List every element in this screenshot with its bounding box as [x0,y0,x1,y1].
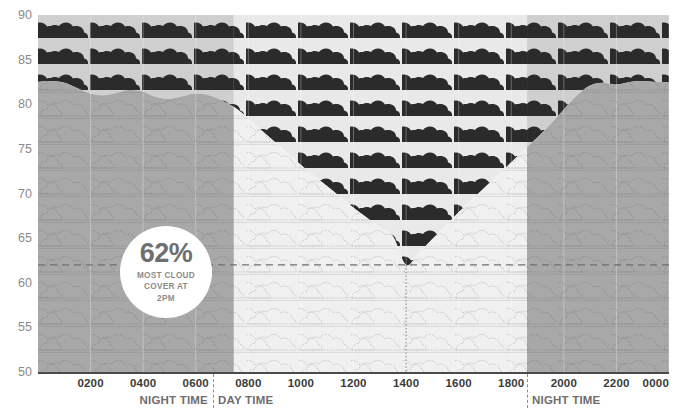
callout-line-1: MOST CLOUD [137,270,195,281]
callout-percent: 62% [140,240,193,267]
y-tick-label: 55 [2,321,32,334]
y-axis: 90 85 80 75 70 65 60 55 50 [0,0,38,419]
y-tick-label: 85 [2,53,32,66]
callout-description: MOST CLOUD COVER AT 2PM [137,270,195,303]
x-tick-label: 0200 [77,377,103,389]
period-label-night-late: NIGHT TIME [532,394,600,406]
period-label-day: DAY TIME [218,394,273,406]
x-tick-label: 0400 [130,377,156,389]
x-tick-label: 0800 [235,377,261,389]
y-tick-label: 50 [2,366,32,379]
x-tick-label: 1200 [340,377,366,389]
y-tick-label: 90 [2,9,32,22]
callout-line-3: 2PM [137,293,195,304]
x-tick-label: 0000 [643,377,669,389]
cloud-cover-area-svg [38,15,669,372]
y-tick-label: 60 [2,277,32,290]
cloud-cover-chart: 90 85 80 75 70 65 60 55 50 [0,0,682,419]
y-tick-label: 75 [2,143,32,156]
x-tick-label: 0600 [183,377,209,389]
callout-line-2: COVER AT [137,281,195,292]
most-cloud-cover-callout: 62% MOST CLOUD COVER AT 2PM [120,226,212,318]
y-tick-label: 65 [2,232,32,245]
x-tick-label: 1000 [288,377,314,389]
x-tick-label: 2000 [551,377,577,389]
x-tick-label: 2200 [603,377,629,389]
y-tick-label: 70 [2,187,32,200]
day-night-separator-morning [213,374,214,408]
plot-area [38,15,669,372]
x-tick-label: 1400 [393,377,419,389]
x-tick-label: 1800 [498,377,524,389]
period-label-night-early: NIGHT TIME [140,394,208,406]
x-tick-label: 1600 [445,377,471,389]
day-night-separator-evening [527,374,528,408]
y-tick-label: 80 [2,98,32,111]
x-axis-line [38,372,669,374]
